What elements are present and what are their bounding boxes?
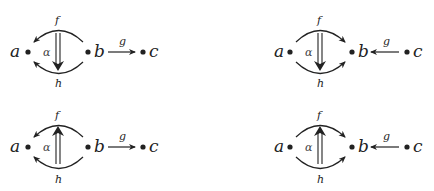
object-a-label: a (10, 41, 20, 61)
object-b-dot (349, 144, 354, 149)
object-b-dot (349, 49, 354, 54)
object-c-dot (404, 49, 409, 54)
morphism-f-arrow (296, 31, 345, 43)
morphism-h-label: h (55, 77, 62, 90)
object-a-dot (287, 144, 292, 149)
object-a-dot (287, 49, 292, 54)
morphism-f-label: f (54, 14, 61, 27)
object-a-dot (25, 144, 30, 149)
diagram-canvas: a b c f h α g a b c f h α g (0, 0, 434, 191)
morphism-g-label: g (383, 130, 390, 143)
object-a-dot (25, 49, 30, 54)
morphism-g-label: g (383, 35, 390, 48)
morphism-h-arrow (34, 157, 83, 169)
morphism-h-label: h (55, 173, 62, 186)
two-cell-arrowhead-down-icon (314, 61, 326, 71)
morphism-g-label: g (119, 130, 126, 143)
two-cell-alpha-label: α (43, 46, 51, 59)
morphism-h-arrow (296, 157, 345, 169)
two-cell-alpha-label: α (305, 46, 313, 59)
morphism-h-label: h (317, 77, 324, 90)
morphism-f-label: f (54, 109, 61, 122)
object-c-label: c (413, 41, 423, 61)
object-b-label: b (358, 41, 369, 61)
diagram-top-left: a b c f h α g (10, 14, 159, 90)
diagram-bottom-left: a b c f h α g (10, 109, 159, 186)
morphism-f-arrow (34, 31, 83, 43)
object-c-dot (140, 49, 145, 54)
object-a-label: a (10, 136, 20, 156)
object-c-dot (404, 144, 409, 149)
object-b-label: b (94, 41, 105, 61)
morphism-f-label: f (316, 109, 323, 122)
object-c-label: c (149, 41, 159, 61)
two-cell-alpha-label: α (43, 141, 51, 154)
two-cell-alpha-label: α (305, 141, 313, 154)
diagram-bottom-right: a b c f h α g (274, 109, 423, 186)
two-cell-arrowhead-up-icon (314, 126, 326, 136)
object-b-dot (85, 144, 90, 149)
morphism-g-label: g (119, 35, 126, 48)
object-c-label: c (149, 136, 159, 156)
two-cell-arrowhead-up-icon (52, 126, 64, 136)
object-c-label: c (413, 136, 423, 156)
object-a-label: a (274, 41, 284, 61)
morphism-h-label: h (317, 173, 324, 186)
object-b-label: b (358, 136, 369, 156)
object-a-label: a (274, 136, 284, 156)
morphism-f-label: f (316, 14, 323, 27)
diagram-top-right: a b c f h α g (274, 14, 423, 90)
object-c-dot (140, 144, 145, 149)
object-b-dot (85, 49, 90, 54)
two-cell-arrowhead-down-icon (52, 61, 64, 71)
object-b-label: b (94, 136, 105, 156)
